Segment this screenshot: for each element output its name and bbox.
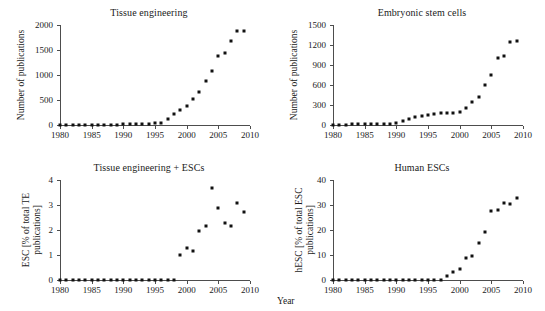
y-axis-line (333, 180, 334, 280)
x-axis-tick (460, 281, 461, 284)
data-point (84, 123, 87, 126)
data-point (90, 279, 93, 282)
y-axis-line (60, 180, 61, 280)
data-point (141, 279, 144, 282)
data-point (370, 279, 373, 282)
data-point (173, 112, 176, 115)
x-axis-tick-label: 1990 (114, 130, 132, 140)
y-axis-label: Number of publications (16, 21, 27, 129)
x-axis-tick (428, 126, 429, 129)
data-point (382, 122, 385, 125)
x-axis-tick-label: 1985 (83, 130, 101, 140)
x-axis-tick (155, 126, 156, 129)
data-point (401, 120, 404, 123)
data-point (59, 279, 62, 282)
data-point (338, 123, 341, 126)
data-point (395, 122, 398, 125)
y-axis-tick-label: 40 (317, 175, 326, 185)
data-point (484, 231, 487, 234)
data-point (351, 279, 354, 282)
data-point (433, 113, 436, 116)
data-point (458, 110, 461, 113)
x-axis-tick-label: 1980 (51, 130, 69, 140)
data-point (154, 122, 157, 125)
data-point (192, 250, 195, 253)
data-point (484, 83, 487, 86)
x-axis-tick-label: 2005 (209, 130, 227, 140)
data-point (433, 279, 436, 282)
x-axis-tick (396, 126, 397, 129)
data-point (78, 123, 81, 126)
y-axis-tick (330, 45, 333, 46)
y-axis-tick (330, 180, 333, 181)
x-axis-tick-label: 1990 (387, 130, 405, 140)
data-point (128, 279, 131, 282)
data-point (477, 241, 480, 244)
chart-title: Tissue engineering + ESCs (0, 162, 272, 173)
y-axis-tick-label: 600 (313, 80, 327, 90)
y-axis-line (333, 25, 334, 125)
data-point (97, 279, 100, 282)
y-axis-tick (57, 25, 60, 26)
data-point (427, 114, 430, 117)
data-point (198, 229, 201, 232)
data-point (78, 279, 81, 282)
x-axis-tick-label: 1985 (83, 285, 101, 295)
data-point (185, 105, 188, 108)
x-axis-tick-label: 1980 (51, 285, 69, 295)
data-point (242, 210, 245, 213)
x-axis-tick (60, 126, 61, 129)
x-axis-tick-label: 2010 (241, 285, 259, 295)
y-axis-tick-label: 300 (313, 100, 327, 110)
y-axis-tick (57, 50, 60, 51)
data-point (217, 54, 220, 57)
x-axis-tick (218, 126, 219, 129)
x-axis-tick-label: 1995 (146, 285, 164, 295)
data-point (420, 114, 423, 117)
x-axis-label-year: Year (277, 296, 295, 306)
data-point (503, 202, 506, 205)
data-point (147, 279, 150, 282)
data-point (376, 279, 379, 282)
data-point (65, 123, 68, 126)
x-axis-tick-label: 1990 (387, 285, 405, 295)
data-point (211, 69, 214, 72)
y-axis-tick-label: 30 (317, 200, 326, 210)
data-point (515, 196, 518, 199)
y-axis-tick (330, 205, 333, 206)
chart-panel-tissue-engineering-escs: Tissue engineering + ESCs 01234198019851… (0, 155, 272, 310)
y-axis-label: ESC [% of total TE publications] (21, 176, 43, 284)
y-axis-tick-label: 1000 (35, 70, 53, 80)
data-point (204, 80, 207, 83)
chart-title: Tissue engineering (0, 7, 272, 18)
data-point (389, 279, 392, 282)
data-point (154, 279, 157, 282)
x-axis-tick (250, 281, 251, 284)
y-axis-tick-label: 0 (322, 275, 327, 285)
data-point (509, 40, 512, 43)
y-axis-tick-label: 4 (49, 175, 54, 185)
plot-area: 0300600900120015001980198519901995200020… (333, 25, 523, 125)
x-axis-tick (523, 281, 524, 284)
data-point (471, 255, 474, 258)
data-point (503, 55, 506, 58)
data-point (59, 123, 62, 126)
data-point (420, 279, 423, 282)
data-point (223, 51, 226, 54)
data-point (363, 279, 366, 282)
data-point (90, 123, 93, 126)
data-point (452, 270, 455, 273)
data-point (103, 279, 106, 282)
chart-panel-tissue-engineering: Tissue engineering 050010001500200019801… (0, 0, 272, 155)
data-point (389, 122, 392, 125)
data-point (376, 123, 379, 126)
data-point (173, 279, 176, 282)
data-point (179, 108, 182, 111)
x-axis-tick (365, 126, 366, 129)
data-point (344, 123, 347, 126)
x-axis-tick (491, 281, 492, 284)
data-point (414, 279, 417, 282)
x-axis-tick (523, 126, 524, 129)
data-point (515, 40, 518, 43)
data-point (357, 123, 360, 126)
